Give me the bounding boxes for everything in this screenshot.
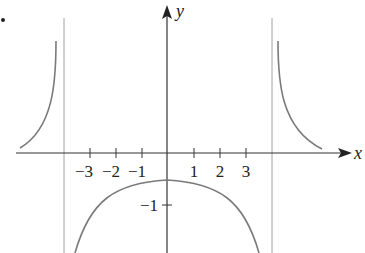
function-curves [20, 41, 322, 253]
y-axis-label: y [174, 1, 184, 21]
x-tick-label: −1 [128, 162, 146, 181]
x-tick-label: 1 [190, 162, 199, 181]
x-axis-label: x [353, 143, 362, 163]
right-branch-curve [278, 41, 322, 149]
y-tick-label: −1 [140, 196, 158, 215]
function-graph: y x −3 −2 −1 1 2 3 −1 [0, 0, 365, 253]
x-tick-label: 3 [242, 162, 251, 181]
left-branch-curve [20, 41, 56, 148]
x-tick-label: −2 [102, 162, 120, 181]
bullet-dot [1, 18, 5, 22]
x-tick-label: −3 [75, 162, 93, 181]
x-tick-label: 2 [216, 162, 225, 181]
